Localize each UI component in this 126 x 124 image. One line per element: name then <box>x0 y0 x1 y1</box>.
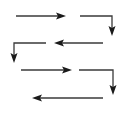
arrow-4 <box>11 43 47 63</box>
arrow-2-shaft <box>80 16 112 30</box>
arrow-5 <box>21 67 72 74</box>
arrow-1 <box>16 13 66 20</box>
arrow-6 <box>79 70 117 95</box>
arrow-2 <box>80 16 116 36</box>
arrow-7 <box>32 95 103 102</box>
serpentine-arrow-diagram <box>0 0 126 124</box>
arrow-4-shaft <box>14 43 46 57</box>
arrow-6-shaft <box>79 70 113 88</box>
arrow-3 <box>54 40 103 47</box>
